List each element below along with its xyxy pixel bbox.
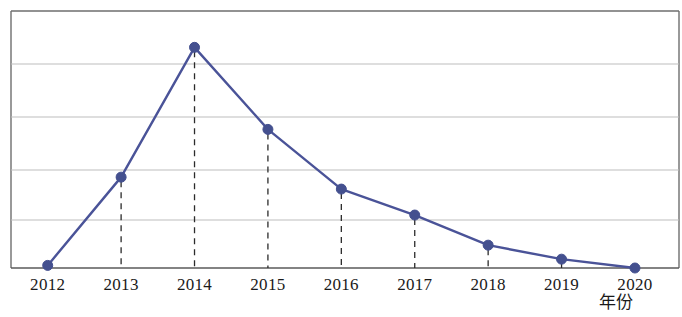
data-point-2018 [483, 240, 493, 250]
x-axis-title: 年份 [599, 293, 633, 312]
x-tick-label-2016: 2016 [324, 275, 359, 294]
data-point-2020 [630, 263, 640, 273]
x-tick-label-2015: 2015 [250, 275, 285, 294]
data-point-2019 [557, 254, 567, 264]
data-point-2017 [410, 210, 420, 220]
chart-canvas: 201220132014201520162017201820192020 年份 [0, 0, 682, 317]
x-tick-label-2012: 2012 [30, 275, 65, 294]
data-point-2014 [190, 42, 200, 52]
x-tick-label-2013: 2013 [104, 275, 139, 294]
x-tick-label-2020: 2020 [617, 275, 652, 294]
data-point-2016 [336, 184, 346, 194]
chart-background [0, 0, 682, 317]
x-tick-label-2014: 2014 [177, 275, 212, 294]
x-tick-label-2019: 2019 [544, 275, 579, 294]
x-axis-tick-labels: 201220132014201520162017201820192020 [30, 275, 652, 294]
x-tick-label-2018: 2018 [471, 275, 506, 294]
data-point-2012 [43, 260, 53, 270]
line-chart: 201220132014201520162017201820192020 年份 [0, 0, 682, 317]
data-point-2013 [116, 172, 126, 182]
x-tick-label-2017: 2017 [397, 275, 432, 294]
data-point-2015 [263, 124, 273, 134]
